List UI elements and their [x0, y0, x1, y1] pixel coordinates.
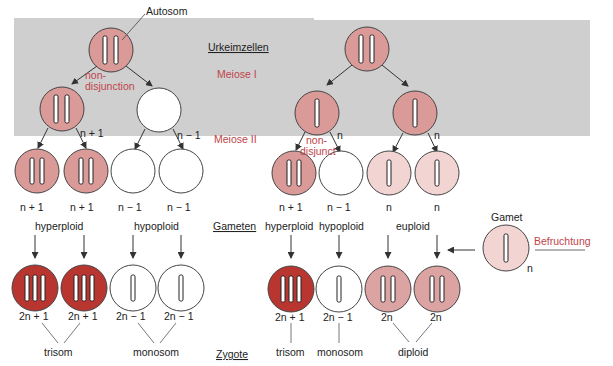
label-right-zygote-2: 2n − 1 — [323, 311, 353, 323]
label-gamet-n: n — [527, 262, 533, 274]
left-gamete-2 — [64, 149, 108, 193]
label-gamet: Gamet — [491, 211, 523, 223]
label-monosom-left: monosom — [133, 346, 179, 358]
label-zygote: Zygote — [216, 348, 248, 360]
left-zygote-2 — [61, 265, 107, 311]
left-zygote-4 — [158, 265, 204, 311]
label-nondisjunction-2: disjunction — [85, 80, 135, 92]
label-left-m1-a: n + 1 — [80, 127, 104, 139]
nondisjunction-diagram: Autosom Urkeimzellen Meiose I Meiose II … — [0, 0, 613, 366]
label-meiose2: Meiose II — [214, 133, 257, 145]
label-hypoploid-left: hypoploid — [134, 220, 179, 232]
label-right-gamete-2: n − 1 — [327, 201, 351, 213]
right-gamete-3 — [367, 151, 411, 195]
label-left-gamete-2: n + 1 — [70, 201, 94, 213]
left-meiose1-cell-n-plus-1 — [40, 87, 84, 131]
label-left-gamete-4: n − 1 — [167, 201, 191, 213]
label-left-zygote-2: 2n + 1 — [68, 310, 98, 322]
left-meiose1-cell-n-minus-1 — [137, 88, 181, 132]
label-left-zygote-3: 2n − 1 — [116, 310, 146, 322]
label-diploid: diploid — [398, 346, 429, 358]
right-urkeimzelle — [345, 27, 389, 71]
right-zygote-2 — [316, 266, 362, 312]
label-hyperploid-right: hyperploid — [265, 220, 314, 232]
label-left-gamete-1: n + 1 — [20, 201, 44, 213]
left-gamete-3 — [111, 149, 155, 193]
right-gamete-2 — [319, 151, 363, 195]
right-meiose1-cell-2 — [393, 91, 437, 135]
label-right-zygote-1: 2n + 1 — [275, 311, 305, 323]
label-hyperploid-left: hyperploid — [35, 220, 84, 232]
label-right-gamete-3: n — [386, 201, 392, 213]
label-euploid: euploid — [396, 220, 430, 232]
incoming-gamete — [483, 225, 529, 271]
label-trisom-left: trisom — [44, 346, 73, 358]
label-meiose1: Meiose I — [217, 68, 257, 80]
left-zygote-3 — [110, 265, 156, 311]
label-monosom-right: monosom — [317, 346, 363, 358]
label-left-zygote-1: 2n + 1 — [19, 310, 49, 322]
right-gamete-1 — [272, 151, 316, 195]
right-zygote-1 — [268, 266, 314, 312]
label-right-m1-b: n — [434, 129, 440, 141]
label-right-gamete-4: n — [434, 201, 440, 213]
label-left-zygote-4: 2n − 1 — [164, 310, 194, 322]
right-gamete-4 — [415, 151, 459, 195]
label-right-zygote-3: 2n — [381, 311, 393, 323]
right-zygote-3 — [365, 266, 411, 312]
label-trisom-right: trisom — [276, 346, 305, 358]
label-hypoploid-right: hypoploid — [319, 220, 364, 232]
label-befruchtung: Befruchtung — [534, 235, 591, 247]
label-left-m1-b: n − 1 — [177, 129, 201, 141]
label-autosom: Autosom — [146, 5, 188, 17]
label-gameten: Gameten — [213, 220, 256, 232]
label-right-gamete-1: n + 1 — [279, 201, 303, 213]
label-left-gamete-3: n − 1 — [118, 201, 142, 213]
left-zygote-1 — [12, 265, 58, 311]
right-zygote-4 — [414, 266, 460, 312]
left-gamete-4 — [159, 149, 203, 193]
right-meiose1-cell-1 — [295, 91, 339, 135]
label-right-nondisjunction-2: disjunct — [300, 145, 336, 157]
label-right-zygote-4: 2n — [430, 311, 442, 323]
label-right-m1-a: n — [337, 129, 343, 141]
label-urkeimzellen: Urkeimzellen — [208, 41, 269, 53]
left-gamete-1 — [15, 149, 59, 193]
